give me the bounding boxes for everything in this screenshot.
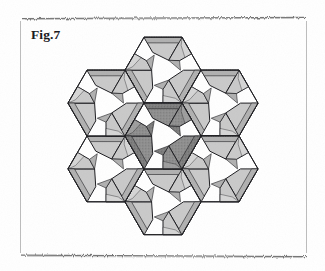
figure-page: Fig.7 [0, 0, 325, 271]
fold-strip-2 [144, 37, 182, 43]
hexagonal-pinwheel-tessellation-rosette [0, 0, 325, 271]
fold-strip-2 [201, 70, 239, 76]
fold-strip-2 [87, 136, 125, 142]
figure-canvas [0, 0, 325, 271]
fold-strip-2 [144, 103, 182, 109]
fold-strip-2 [87, 70, 125, 76]
fold-strip-2 [201, 136, 239, 142]
fold-strip-2 [144, 169, 182, 175]
